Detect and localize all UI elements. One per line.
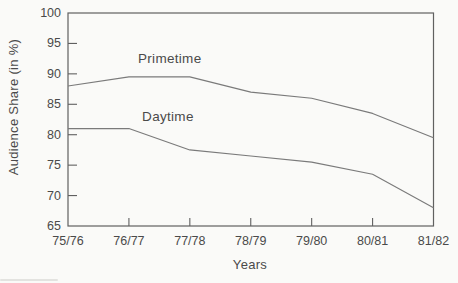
- y-axis-title: Audience Share (in %): [6, 39, 21, 175]
- scan-artifact: [0, 279, 58, 281]
- primetime-series-label: Primetime: [138, 51, 201, 66]
- plot-frame: [68, 13, 434, 226]
- y-tick-label: 80: [47, 128, 61, 142]
- x-tick-label: 80/81: [357, 234, 388, 248]
- x-tick-label: 75/76: [52, 234, 83, 248]
- y-tick-label: 65: [47, 219, 61, 233]
- y-tick-label: 70: [47, 189, 61, 203]
- y-tick-label: 100: [40, 6, 61, 20]
- x-tick-label: 79/80: [296, 234, 327, 248]
- daytime-series-label: Daytime: [142, 109, 194, 124]
- audience-share-chart: Audience Share (in %) Years Primetime Da…: [0, 0, 458, 283]
- y-tick-label: 75: [47, 158, 61, 172]
- y-tick-label: 85: [47, 97, 61, 111]
- x-axis-title: Years: [233, 257, 267, 272]
- x-tick-label: 81/82: [418, 234, 449, 248]
- y-tick-label: 95: [47, 36, 61, 50]
- x-tick-label: 76/77: [113, 234, 144, 248]
- x-tick-label: 77/78: [174, 234, 205, 248]
- daytime-line: [68, 129, 434, 208]
- y-tick-label: 90: [47, 67, 61, 81]
- x-tick-label: 78/79: [235, 234, 266, 248]
